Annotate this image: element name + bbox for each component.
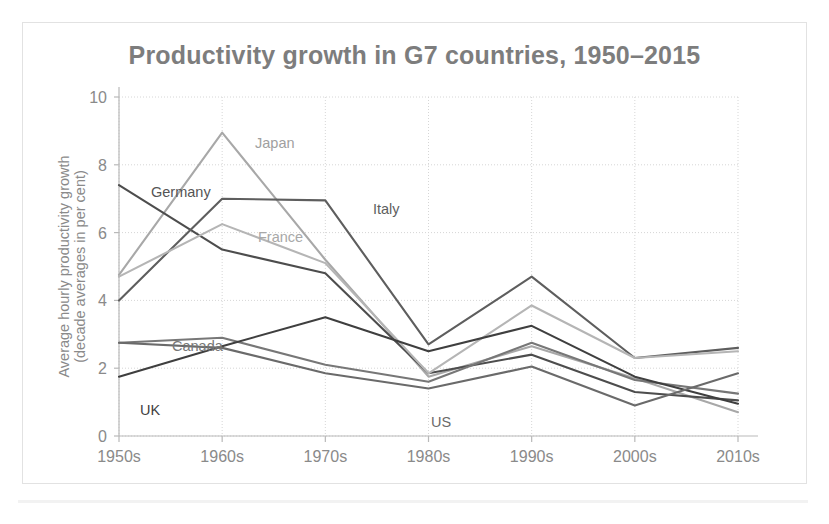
x-tick-labels: 1950s1960s1970s1980s1990s2000s2010s <box>97 448 760 465</box>
series-label-canada: Canada <box>172 338 224 354</box>
series-label-germany: Germany <box>151 184 211 200</box>
axis-lines <box>114 87 758 442</box>
y-tick-label-4: 4 <box>98 292 107 309</box>
x-tick-label-2000s: 2000s <box>613 448 657 465</box>
y-axis-title-line-2: (decade averages in per cent) <box>72 170 88 363</box>
page-edge-artifact <box>18 500 808 503</box>
series-label-uk: UK <box>140 402 160 418</box>
chart-card: Productivity growth in G7 countries, 195… <box>22 22 807 484</box>
x-tick-label-1960s: 1960s <box>200 448 244 465</box>
y-axis-title-line-1: Average hourly productivity growth <box>56 155 72 377</box>
x-tick-label-2010s: 2010s <box>716 448 760 465</box>
y-tick-labels: 0246810 <box>89 89 107 445</box>
series-label-us: US <box>431 414 451 430</box>
series-label-italy: Italy <box>373 201 400 217</box>
y-axis-title: Average hourly productivity growth(decad… <box>56 155 88 377</box>
x-tick-label-1970s: 1970s <box>304 448 348 465</box>
line-chart-plot: 0246810 1950s1960s1970s1980s1990s2000s20… <box>23 23 808 485</box>
series-label-japan: Japan <box>255 135 295 151</box>
x-tick-label-1950s: 1950s <box>97 448 141 465</box>
y-tick-label-8: 8 <box>98 157 107 174</box>
series-line-uk <box>119 317 738 403</box>
series-label-france: France <box>258 229 303 245</box>
y-tick-label-6: 6 <box>98 225 107 242</box>
x-tick-label-1980s: 1980s <box>407 448 451 465</box>
y-tick-label-0: 0 <box>98 428 107 445</box>
y-tick-label-10: 10 <box>89 89 107 106</box>
figure-root: Productivity growth in G7 countries, 195… <box>0 0 829 524</box>
x-tick-label-1990s: 1990s <box>510 448 554 465</box>
y-tick-label-2: 2 <box>98 360 107 377</box>
